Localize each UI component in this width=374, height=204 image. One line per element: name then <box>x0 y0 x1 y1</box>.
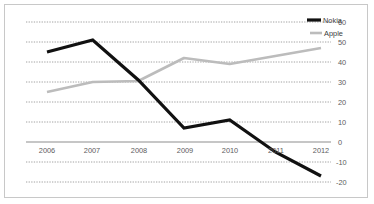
x-tick-2011: 2011 <box>268 146 284 155</box>
y-tick-40: 40 <box>338 58 346 67</box>
x-tick-2009: 2009 <box>177 146 193 155</box>
x-tick-2007: 2007 <box>84 146 100 155</box>
legend-item-apple[interactable]: Apple <box>310 29 343 38</box>
series-line-apple <box>47 48 321 92</box>
chart-legend: Nokia Apple <box>307 16 343 38</box>
x-axis-tick-labels: 2006 2007 2008 2009 2010 2011 2012 <box>39 146 329 155</box>
legend-label-apple: Apple <box>324 29 343 38</box>
x-tick-2006: 2006 <box>39 146 55 155</box>
y-tick-minus-10: -10 <box>336 158 347 167</box>
legend-label-nokia: Nokia <box>323 16 343 25</box>
x-tick-2012: 2012 <box>313 146 329 155</box>
x-tick-2010: 2010 <box>222 146 238 155</box>
legend-item-nokia[interactable]: Nokia <box>307 16 343 25</box>
series-line-nokia <box>47 40 321 176</box>
y-tick-30: 30 <box>338 78 346 87</box>
x-tick-2008: 2008 <box>131 146 147 155</box>
y-tick-20: 20 <box>338 98 346 107</box>
y-axis-tick-labels: 60 50 40 30 20 10 0 -10 -20 <box>336 18 347 187</box>
y-tick-minus-20: -20 <box>336 178 347 187</box>
y-tick-10: 10 <box>338 118 346 127</box>
y-tick-50: 50 <box>338 38 346 47</box>
y-tick-0: 0 <box>338 138 342 147</box>
line-chart: 2006 2007 2008 2009 2010 2011 2012 60 50… <box>0 0 374 204</box>
